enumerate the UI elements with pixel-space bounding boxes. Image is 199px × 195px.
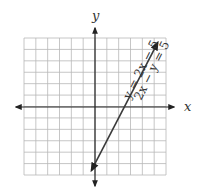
coordinate-plane: x y y = 2x − 5 2x − y = 5 [0, 0, 199, 195]
x-axis-label: x [184, 99, 192, 114]
y-axis-label: y [91, 8, 100, 23]
